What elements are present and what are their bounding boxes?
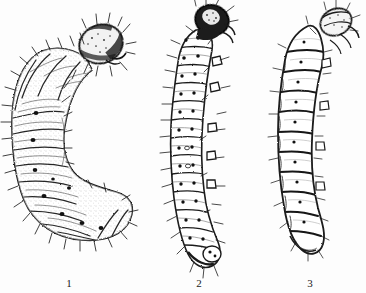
larva-2-prolegs (207, 56, 222, 188)
figure-2-caption: 2 (144, 278, 254, 289)
larva-1-illustration (0, 0, 150, 293)
figure-plate: 1 (0, 0, 366, 293)
figure-3-caption: 3 (257, 278, 363, 289)
figure-panel-1: 1 (0, 0, 150, 293)
figure-panel-3: 3 (260, 0, 366, 293)
larva-1-body (12, 48, 132, 240)
figure-panel-2: 2 (150, 0, 260, 293)
larva-2-illustration (150, 0, 260, 293)
larva-3-illustration (260, 0, 366, 293)
figure-1-caption: 1 (0, 278, 144, 289)
